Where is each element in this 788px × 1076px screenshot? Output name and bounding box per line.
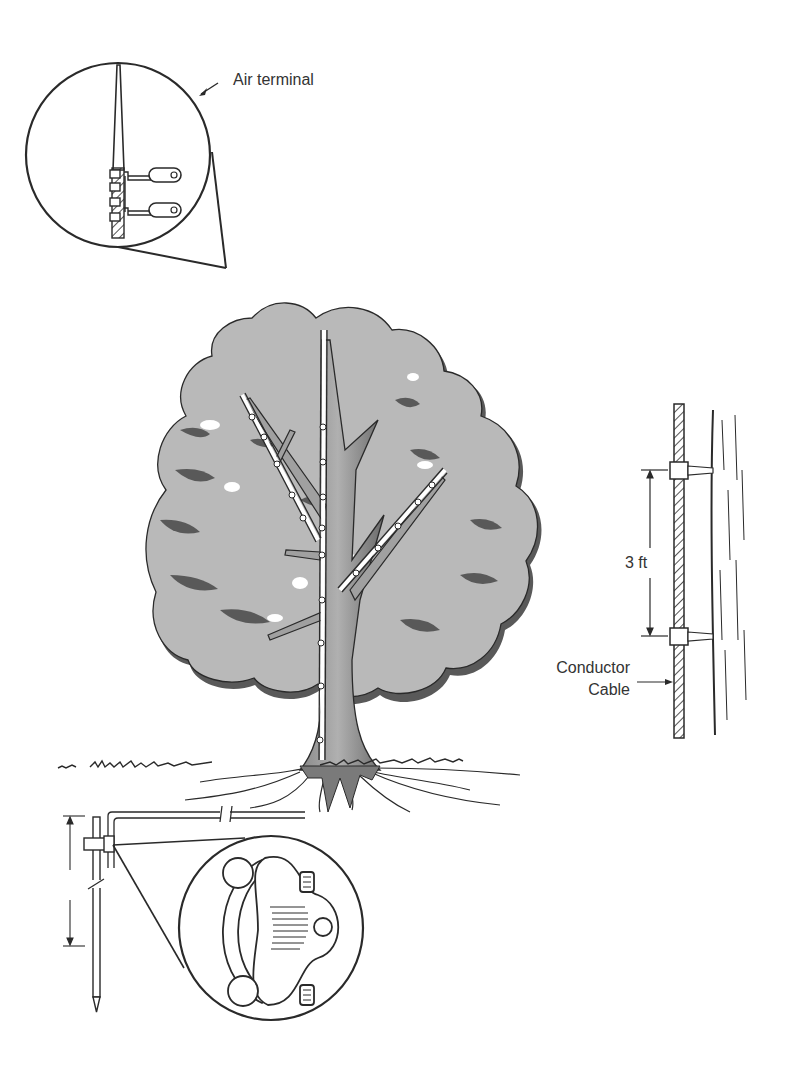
tree-illustration <box>58 303 541 812</box>
conductor-cable <box>674 404 684 738</box>
conductor-detail <box>637 404 746 738</box>
air-terminal-label: Air terminal <box>233 70 314 89</box>
spacing-label: 3 ft <box>625 553 647 572</box>
conductor-label-line2: Cable <box>520 680 630 699</box>
callout-line <box>113 845 184 968</box>
callout-line <box>113 838 245 845</box>
callout-line <box>118 247 226 268</box>
conductor-label-line1: Conductor <box>520 658 630 677</box>
mounting-lug <box>149 203 181 217</box>
trunk-edge <box>712 410 715 735</box>
ground-rod-assembly <box>63 806 363 1020</box>
lightning-protection-diagram <box>0 0 788 1076</box>
mounting-lug <box>149 168 181 182</box>
ground-line <box>58 758 463 768</box>
air-terminal-inset <box>26 63 226 268</box>
cable-fastener <box>670 462 688 479</box>
rod-length-dimension <box>63 816 85 946</box>
cable-fastener <box>670 628 688 645</box>
callout-line <box>212 152 226 268</box>
bark-texture <box>720 415 746 720</box>
root-flare <box>300 766 380 812</box>
